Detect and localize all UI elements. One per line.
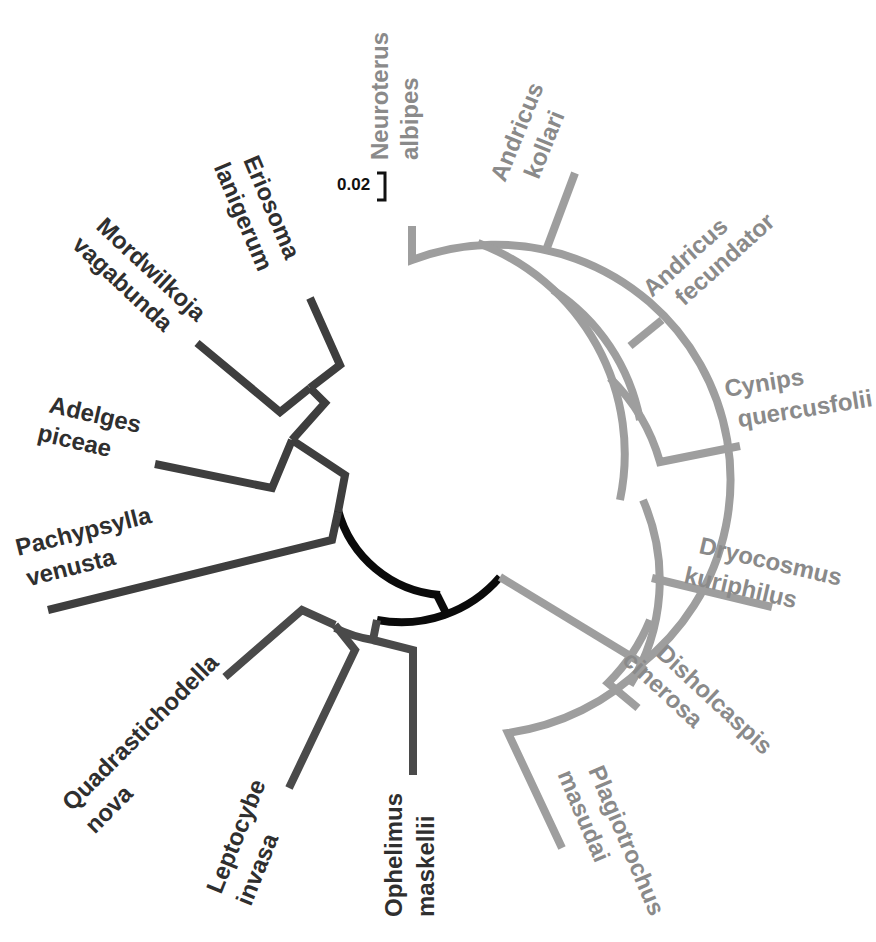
label-cynips-quercusfolii: Cynips quercusfolii	[723, 353, 874, 434]
label-pachypsylla-venusta: Pachypsylla venusta	[13, 501, 163, 592]
branch-andricus-fecundator	[630, 320, 662, 346]
branch-leptocybe-invasa	[289, 625, 355, 788]
branch-mordwilkoja-vagabunda	[197, 343, 310, 412]
svg-text:Neuroterus: Neuroterus	[366, 32, 393, 160]
label-ophelimus-maskellii: Ophelimus maskellii	[380, 793, 439, 917]
svg-text:maskellii: maskellii	[412, 816, 439, 917]
svg-text:albipes: albipes	[396, 77, 423, 160]
cynipid-inner-arc-1	[478, 243, 625, 500]
root-arc-inner	[338, 510, 440, 595]
branch-andricus-kollari	[545, 173, 575, 253]
label-eriosoma-lanigerum: Eriosoma lanigerum	[209, 147, 306, 275]
label-leptocybe-invasa: Leptocybe invasa	[201, 775, 301, 908]
label-neuroterus-albipes: Neuroterus albipes	[366, 32, 423, 160]
label-disholcaspis-cinerosa: Disholcaspis cinerosa	[618, 625, 778, 780]
phylogenetic-tree: 0.02 Neur	[0, 0, 876, 942]
label-mordwilkoja-vagabunda: Mordwilkoja vagabunda	[67, 209, 211, 349]
label-andricus-fecundator: Andricus fecundator	[637, 187, 779, 323]
svg-text:Ophelimus: Ophelimus	[380, 793, 407, 917]
taxon-labels: Neuroterus albipes Andricus kollari Andr…	[13, 32, 874, 931]
scale-bar-line	[377, 173, 385, 200]
chalcid-clade-branches	[225, 610, 413, 788]
cynipid-stem	[500, 577, 640, 662]
svg-text:Quadrastichodella: Quadrastichodella	[56, 648, 224, 816]
label-plagiotrochus-masudai: Plagiotrochus masudai	[553, 754, 671, 931]
scale-bar-label: 0.02	[337, 175, 370, 194]
hemipteran-stem	[292, 440, 345, 512]
branch-ophelimus-maskellii	[373, 640, 413, 775]
label-andricus-kollari: Andricus kollari	[485, 78, 577, 196]
root-branches	[338, 510, 500, 622]
scale-bar: 0.02	[337, 173, 385, 200]
branch-quadrastichodella-nova	[225, 610, 335, 677]
label-quadrastichodella-nova: Quadrastichodella nova	[56, 648, 246, 838]
branch-eriosoma-lanigerum	[310, 298, 340, 388]
label-adelges-piceae: Adelges piceae	[35, 389, 144, 467]
branch-adelges-piceae	[155, 440, 292, 488]
